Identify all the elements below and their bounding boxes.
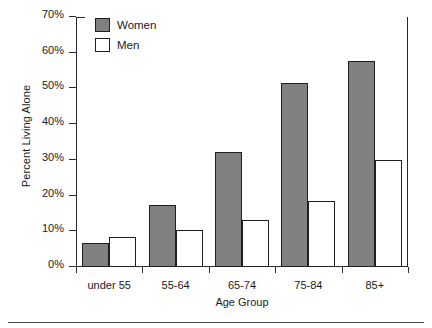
y-tick: 50% xyxy=(69,87,76,88)
bar-men-85- xyxy=(375,160,402,267)
x-axis-title: Age Group xyxy=(76,296,408,308)
x-tick xyxy=(76,267,77,273)
y-tick: 30% xyxy=(69,159,76,160)
y-axis-title: Percent Living Alone xyxy=(20,56,32,216)
x-tick xyxy=(209,267,210,273)
chart-legend: Women Men xyxy=(95,15,156,55)
bar-women-85- xyxy=(348,61,375,267)
y-tick-label: 0% xyxy=(48,258,64,270)
x-tick xyxy=(142,267,143,273)
frame-corner-mark xyxy=(76,17,85,18)
y-tick-label: 40% xyxy=(42,115,64,127)
y-tick: 60% xyxy=(69,52,76,53)
bar-women-75-84 xyxy=(281,83,308,267)
x-tick xyxy=(275,267,276,273)
y-axis-line xyxy=(76,17,77,267)
bar-men-75-84 xyxy=(308,201,335,267)
right-axis-line xyxy=(407,17,408,267)
bar-women-65-74 xyxy=(215,152,242,267)
legend-swatch-women-icon xyxy=(95,18,110,32)
x-tick-label: 55-64 xyxy=(162,279,190,291)
y-tick-label: 60% xyxy=(42,44,64,56)
legend-item-women: Women xyxy=(95,15,156,35)
x-tick-label: 75-84 xyxy=(294,279,322,291)
y-tick-label: 30% xyxy=(42,151,64,163)
y-tick: 70% xyxy=(69,16,76,17)
bar-men-65-74 xyxy=(242,220,269,267)
x-tick xyxy=(342,267,343,273)
bar-men-55-64 xyxy=(176,230,203,267)
x-tick-label: under 55 xyxy=(87,279,130,291)
bar-women-55-64 xyxy=(149,205,176,267)
x-tick xyxy=(408,267,409,273)
bar-men-under-55 xyxy=(109,237,136,267)
y-tick-label: 70% xyxy=(42,8,64,20)
bar-women-under-55 xyxy=(82,243,109,267)
y-tick-label: 10% xyxy=(42,222,64,234)
y-tick: 0% xyxy=(69,266,76,267)
y-tick: 20% xyxy=(69,195,76,196)
legend-label-women: Women xyxy=(117,19,156,31)
x-tick-label: 85+ xyxy=(365,279,384,291)
y-tick-label: 50% xyxy=(42,79,64,91)
y-tick-label: 20% xyxy=(42,187,64,199)
legend-item-men: Men xyxy=(95,35,156,55)
legend-label-men: Men xyxy=(117,39,139,51)
legend-swatch-men-icon xyxy=(95,38,110,52)
footer-divider xyxy=(8,322,424,323)
x-tick-label: 65-74 xyxy=(228,279,256,291)
bar-chart-figure: Percent Living Alone 0%10%20%30%40%50%60… xyxy=(0,0,432,328)
y-tick: 10% xyxy=(69,230,76,231)
y-tick: 40% xyxy=(69,123,76,124)
